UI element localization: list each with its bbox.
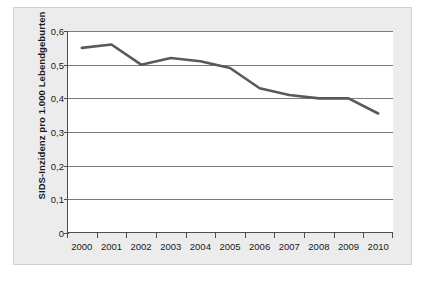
x-axis-tick-mark xyxy=(67,233,68,238)
chart-figure: SIDS-Inzidenz pro 1.000 Lebendgeburten 0… xyxy=(13,7,412,265)
plot-area xyxy=(67,31,393,233)
x-axis-tick-label: 2010 xyxy=(358,241,398,252)
x-axis-tick-mark xyxy=(215,233,216,238)
x-axis-tick-mark xyxy=(334,233,335,238)
x-axis-tick-mark xyxy=(304,233,305,238)
data-series-line xyxy=(67,31,393,233)
x-axis-tick-mark xyxy=(274,233,275,238)
y-axis-tick-label: 0,1 xyxy=(30,194,64,205)
x-axis-tick-mark xyxy=(392,233,393,238)
x-axis-tick-mark xyxy=(126,233,127,238)
y-axis-tick-label: 0,2 xyxy=(30,160,64,171)
y-axis-tick-group: 0,60,50,40,30,20,10 xyxy=(26,31,64,233)
y-axis-tick-label: 0,6 xyxy=(30,26,64,37)
x-axis-tick-mark xyxy=(97,233,98,238)
y-axis-tick-label: 0,5 xyxy=(30,59,64,70)
y-axis-tick-label: 0 xyxy=(30,228,64,239)
x-axis-tick-mark xyxy=(186,233,187,238)
x-axis-tick-mark xyxy=(245,233,246,238)
y-axis-tick-label: 0,3 xyxy=(30,127,64,138)
y-axis-tick-label: 0,4 xyxy=(30,93,64,104)
x-axis-tick-mark xyxy=(363,233,364,238)
x-axis-tick-mark xyxy=(156,233,157,238)
x-axis-tick-group: 2000200120022003200420052006200720082009… xyxy=(67,233,393,263)
